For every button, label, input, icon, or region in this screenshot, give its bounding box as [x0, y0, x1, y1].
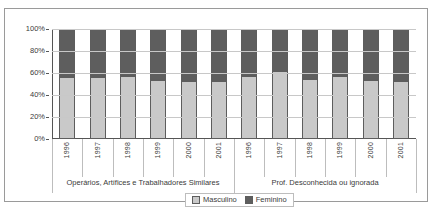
y-axis-label: 40% [30, 91, 45, 99]
bar-segment-feminino [302, 29, 318, 79]
plot-area [52, 29, 416, 139]
x-axis-year-label: 1997 [276, 142, 283, 158]
y-axis-label: 100% [26, 25, 45, 33]
bars-container [52, 29, 416, 139]
x-axis-year-label: 1999 [336, 142, 343, 158]
chart-screenshot: 0%20%40%60%80%100% 199619971998199920002… [0, 0, 438, 211]
bar-segment-feminino [90, 29, 106, 77]
stacked-bar [59, 29, 75, 139]
stacked-bar [150, 29, 166, 139]
legend-label-masculino: Masculino [203, 196, 237, 204]
gridline [52, 29, 416, 30]
x-axis-year-label: 1997 [94, 142, 101, 158]
bar-segment-masculino [150, 80, 166, 139]
category-group-label: Prof. Desconhecida ou ignorada [234, 177, 416, 189]
x-axis-year-label: 2000 [185, 142, 192, 158]
x-axis-year-label: 1996 [63, 142, 70, 158]
x-axis-separator [295, 139, 296, 177]
gridline [52, 117, 416, 118]
bar-segment-masculino [241, 76, 257, 139]
x-axis-separator [204, 139, 205, 177]
y-axis-tick [46, 95, 49, 96]
x-axis-separator [264, 139, 265, 177]
y-axis-tick [46, 73, 49, 74]
y-axis-label: 80% [30, 47, 45, 55]
bar-segment-feminino [59, 29, 75, 77]
x-axis-year-label: 1998 [124, 142, 131, 158]
y-axis-tick [46, 51, 49, 52]
y-axis-tick [46, 29, 49, 30]
stacked-bar [241, 29, 257, 139]
x-axis-year-label: 1996 [245, 142, 252, 158]
x-axis-year-label: 1998 [306, 142, 313, 158]
stacked-bar [181, 29, 197, 139]
y-axis: 0%20%40%60%80%100% [11, 29, 49, 139]
stacked-bar [272, 29, 288, 139]
bar-segment-masculino [302, 79, 318, 140]
stacked-bar [211, 29, 227, 139]
gridline [52, 51, 416, 52]
stacked-bar [120, 29, 136, 139]
bar-segment-feminino [332, 29, 348, 76]
bar-segment-masculino [120, 76, 136, 139]
legend-item-masculino: Masculino [192, 196, 237, 204]
x-axis-separator [82, 139, 83, 177]
stacked-bar [302, 29, 318, 139]
stacked-bar [90, 29, 106, 139]
chart-frame: 0%20%40%60%80%100% 199619971998199920002… [4, 8, 428, 202]
bar-segment-masculino [211, 81, 227, 139]
gridline [52, 95, 416, 96]
legend-item-feminino: Feminino [245, 196, 287, 204]
y-axis-label: 20% [30, 113, 45, 121]
legend-swatch-masculino-icon [192, 196, 200, 204]
category-group-separator [52, 139, 53, 193]
bar-segment-masculino [181, 81, 197, 139]
bar-segment-masculino [59, 77, 75, 139]
x-axis-separator [325, 139, 326, 177]
bar-segment-masculino [332, 76, 348, 139]
bar-segment-masculino [272, 71, 288, 139]
category-group-separator [416, 139, 417, 193]
legend-label-feminino: Feminino [256, 196, 287, 204]
x-axis-year-label: 2001 [215, 142, 222, 158]
x-axis-separator [143, 139, 144, 177]
bar-segment-feminino [241, 29, 257, 76]
x-axis-separator [113, 139, 114, 177]
legend-swatch-feminino-icon [245, 196, 253, 204]
chart-legend: Masculino Feminino [185, 193, 294, 207]
stacked-bar [363, 29, 379, 139]
x-axis-year-label: 1999 [154, 142, 161, 158]
y-axis-label: 0% [34, 135, 45, 143]
y-axis-tick [46, 139, 49, 140]
y-axis-tick [46, 117, 49, 118]
category-group-label: Operários, Artífices e Trabalhadores Sim… [52, 177, 234, 189]
x-axis-separator [386, 139, 387, 177]
gridline [52, 73, 416, 74]
category-group-labels: Operários, Artífices e Trabalhadores Sim… [52, 177, 416, 193]
bar-segment-masculino [393, 81, 409, 139]
bar-segment-feminino [272, 29, 288, 71]
stacked-bar [393, 29, 409, 139]
bar-segment-feminino [120, 29, 136, 76]
x-axis-year-label: 2001 [397, 142, 404, 158]
bar-segment-masculino [363, 80, 379, 139]
x-axis-year-label: 2000 [367, 142, 374, 158]
bar-segment-masculino [90, 77, 106, 139]
stacked-bar [332, 29, 348, 139]
bar-segment-feminino [150, 29, 166, 80]
category-group-separator [234, 139, 235, 193]
x-axis-separator [355, 139, 356, 177]
bar-segment-feminino [363, 29, 379, 80]
y-axis-label: 60% [30, 69, 45, 77]
x-axis-separator [173, 139, 174, 177]
